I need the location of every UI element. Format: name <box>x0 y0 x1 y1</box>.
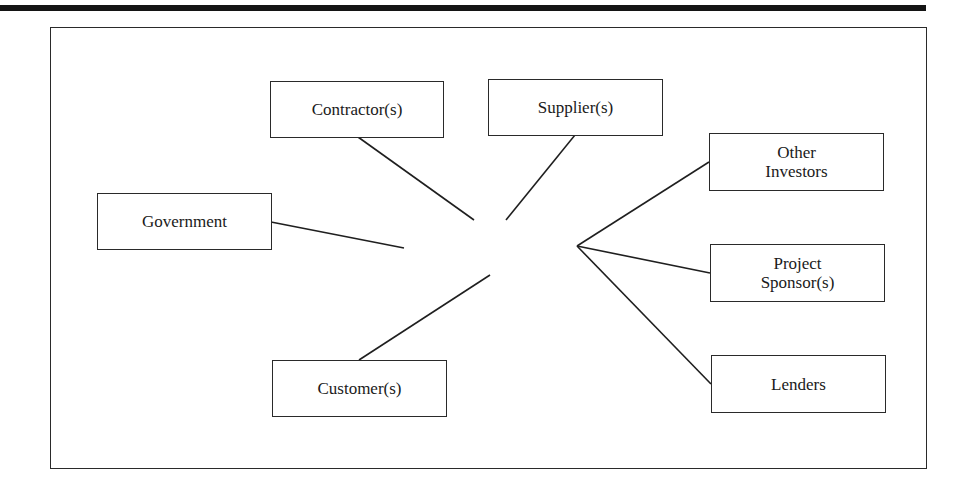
edge-project-sponsors <box>577 246 710 273</box>
node-label-line2: Investors <box>765 162 827 181</box>
node-contractors: Contractor(s) <box>270 81 444 138</box>
edge-other-investors <box>577 162 709 246</box>
node-lenders: Lenders <box>711 355 886 413</box>
node-customers: Customer(s) <box>272 360 447 417</box>
node-other-investors: Other Investors <box>709 133 884 191</box>
node-label-line2: Sponsor(s) <box>761 273 835 292</box>
node-label-line1: Project <box>773 254 821 273</box>
node-government: Government <box>97 193 272 250</box>
node-label: Government <box>142 212 227 231</box>
edge-contractors <box>358 137 474 220</box>
edge-lenders <box>577 246 711 384</box>
node-label: Supplier(s) <box>538 98 614 117</box>
node-label: Contractor(s) <box>312 100 403 119</box>
node-label: Customer(s) <box>317 379 401 398</box>
node-suppliers: Supplier(s) <box>488 79 663 136</box>
node-label: Lenders <box>771 375 826 394</box>
edge-government <box>271 222 404 248</box>
node-label-line1: Other <box>777 143 816 162</box>
edge-suppliers <box>506 135 575 220</box>
node-project-sponsors: Project Sponsor(s) <box>710 244 885 302</box>
edge-customers <box>359 275 490 360</box>
